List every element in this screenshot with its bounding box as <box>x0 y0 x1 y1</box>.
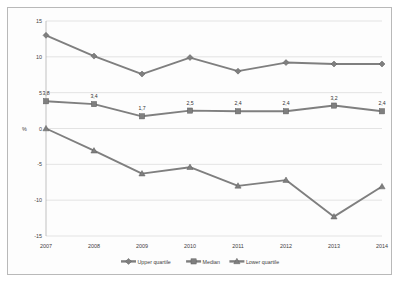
chart-plot-area: 151050-5-10-15%2007200820092010201120122… <box>8 8 391 274</box>
x-axis-tick-label: 2014 <box>376 243 388 249</box>
x-axis-tick-label: 2011 <box>232 243 244 249</box>
data-point-label: 3,8 <box>42 90 49 96</box>
data-point-marker <box>191 259 196 264</box>
data-point-marker <box>126 258 132 264</box>
data-point-marker <box>283 109 288 114</box>
legend-label: Upper quartile <box>138 259 171 265</box>
series-line-lower-quartile <box>46 129 382 217</box>
x-axis-tick-label: 2007 <box>40 243 52 249</box>
data-point-marker <box>379 109 384 114</box>
data-point-marker <box>379 183 385 188</box>
data-point-marker <box>379 61 385 67</box>
x-axis-tick-label: 2010 <box>184 243 196 249</box>
chart-container: 151050-5-10-15%2007200820092010201120122… <box>7 7 392 275</box>
y-axis-tick-label: 10 <box>36 54 42 60</box>
data-point-marker <box>91 53 97 59</box>
x-axis-tick-label: 2008 <box>88 243 100 249</box>
data-point-label: 3,4 <box>90 93 97 99</box>
y-axis-tick-label: -10 <box>34 197 42 203</box>
x-axis-tick-label: 2013 <box>328 243 340 249</box>
legend-label: Lower quartile <box>246 259 279 265</box>
data-point-label: 3,2 <box>330 95 337 101</box>
y-axis-tick-label: -5 <box>37 161 42 167</box>
y-axis-tick-label: -15 <box>34 233 42 239</box>
data-point-label: 2,4 <box>282 100 289 106</box>
data-point-label: 1,7 <box>138 105 145 111</box>
data-point-label: 2,4 <box>234 100 241 106</box>
data-point-marker <box>235 109 240 114</box>
data-point-marker <box>283 60 289 66</box>
y-axis-title: % <box>22 126 27 132</box>
data-point-marker <box>43 125 49 130</box>
data-point-label: 2,5 <box>186 100 193 106</box>
data-point-marker <box>235 68 241 74</box>
line-chart: 151050-5-10-15%2007200820092010201120122… <box>8 8 391 274</box>
x-axis-tick-label: 2009 <box>136 243 148 249</box>
data-point-marker <box>43 99 48 104</box>
data-point-marker <box>187 108 192 113</box>
x-axis-tick-label: 2012 <box>280 243 292 249</box>
y-axis-tick-label: 15 <box>36 18 42 24</box>
data-point-marker <box>187 55 193 61</box>
data-point-marker <box>139 114 144 119</box>
data-point-marker <box>331 61 337 67</box>
data-point-marker <box>91 102 96 107</box>
data-point-marker <box>139 71 145 77</box>
data-point-marker <box>43 32 49 38</box>
y-axis-tick-label: 0 <box>39 126 42 132</box>
data-point-marker <box>331 103 336 108</box>
series-line-upper-quartile <box>46 35 382 74</box>
legend-label: Median <box>203 259 220 265</box>
data-point-label: 2,4 <box>378 100 385 106</box>
